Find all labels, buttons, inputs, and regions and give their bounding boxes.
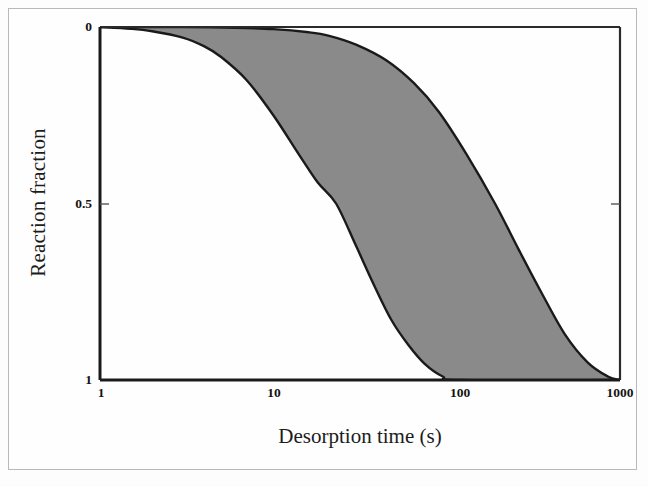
y-tick-label-0: 0 <box>52 19 92 35</box>
reaction-fraction-chart <box>0 0 648 487</box>
y-axis-title: Reaction fraction <box>26 103 51 303</box>
x-axis-title: Desorption time (s) <box>100 424 620 449</box>
x-tick-label-100: 100 <box>450 385 470 401</box>
x-tick-label-1: 1 <box>98 385 105 401</box>
x-tick-label-10: 10 <box>267 385 281 401</box>
figure-page: 0 0.5 1 1 10 100 1000 Reaction fraction … <box>0 0 648 487</box>
y-tick-label-1: 1 <box>52 372 92 388</box>
shaded-band-area <box>100 27 620 380</box>
x-tick-label-1000: 1000 <box>607 385 634 401</box>
